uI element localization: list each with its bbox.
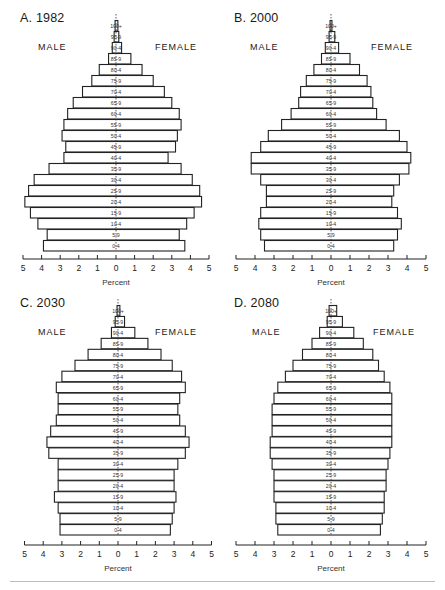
age-bar: 55-9 <box>58 404 178 414</box>
age-bar: 30-4 <box>272 459 388 469</box>
age-bar: 5-9 <box>47 230 179 241</box>
x-tick-label: 5 <box>424 263 429 273</box>
age-bar: 75-9 <box>306 76 367 87</box>
age-bar: 5-9 <box>261 230 398 241</box>
x-tick-label: 2 <box>153 549 158 559</box>
x-axis-label: Percent <box>102 278 130 287</box>
panel-2080: D. 2080 MALE FEMALE 100+95-990-485-980-4… <box>220 295 435 585</box>
population-pyramid: 100+95-990-485-980-475-970-465-960-455-9… <box>0 295 225 585</box>
age-bar: 60-4 <box>58 393 180 403</box>
x-tick-label: 1 <box>97 549 102 559</box>
x-tick-label: 3 <box>272 549 277 559</box>
x-tick-label: 5 <box>207 263 212 273</box>
x-axis: 54321012345Percent <box>234 541 429 573</box>
x-tick-label: 1 <box>310 549 315 559</box>
x-tick-label: 3 <box>60 549 65 559</box>
age-bar: 50-4 <box>268 131 399 142</box>
population-pyramid: 100+95-990-485-980-475-970-465-960-455-9… <box>220 0 445 290</box>
x-tick-label: 3 <box>386 263 391 273</box>
age-bar: 85-9 <box>312 338 363 348</box>
x-tick-label: 4 <box>253 263 258 273</box>
age-bar: 80-4 <box>88 349 161 359</box>
age-bar: 20-4 <box>58 481 174 491</box>
age-bar: 5-9 <box>60 514 172 524</box>
x-tick-label: 2 <box>291 263 296 273</box>
age-bar: 45-9 <box>66 142 176 153</box>
age-bar: 10-4 <box>259 219 402 230</box>
age-bar: 35-9 <box>49 164 181 175</box>
age-bar: 0-4 <box>278 525 381 535</box>
age-bar: 15-9 <box>274 492 384 502</box>
age-bar: 80-4 <box>99 65 142 76</box>
x-tick-label: 3 <box>172 549 177 559</box>
age-bar: 35-9 <box>270 448 390 458</box>
age-bar: 10-4 <box>276 503 384 513</box>
x-tick-label: 2 <box>291 549 296 559</box>
age-bar: 15-9 <box>261 208 398 219</box>
age-bar: 65-9 <box>278 382 390 392</box>
age-bar: 80-4 <box>303 349 373 359</box>
age-bar: 0-4 <box>60 525 170 535</box>
x-tick-label: 0 <box>116 549 121 559</box>
x-tick-label: 4 <box>41 549 46 559</box>
x-tick-label: 4 <box>405 263 410 273</box>
x-tick-label: 3 <box>58 263 63 273</box>
age-bar: 75-9 <box>75 360 172 370</box>
panel-2000: B. 2000 MALE FEMALE 100+95-990-485-980-4… <box>220 0 435 290</box>
age-bar: 90-4 <box>325 43 338 54</box>
x-tick-label: 4 <box>253 549 258 559</box>
age-bar: 50-4 <box>272 415 392 425</box>
age-bar: 90-4 <box>111 327 134 337</box>
x-tick-label: 3 <box>169 263 174 273</box>
age-bar: 70-4 <box>83 87 165 98</box>
age-bar: 85-9 <box>322 54 351 65</box>
x-tick-label: 5 <box>21 263 26 273</box>
age-bar: 75-9 <box>293 360 379 370</box>
x-tick-label: 1 <box>310 263 315 273</box>
age-bar: 55-9 <box>64 120 181 131</box>
age-bar: 60-4 <box>68 109 180 120</box>
age-bar: 55-9 <box>272 404 392 414</box>
age-bar: 65-9 <box>56 382 185 392</box>
age-bar: 70-4 <box>285 371 384 381</box>
x-tick-label: 0 <box>114 263 119 273</box>
panel-2030: C. 2030 MALE FEMALE 100+95-990-485-980-4… <box>0 295 215 585</box>
x-tick-label: 1 <box>132 263 137 273</box>
age-bar: 50-4 <box>62 131 177 142</box>
x-tick-label: 3 <box>386 549 391 559</box>
x-tick-label: 4 <box>39 263 44 273</box>
x-tick-label: 2 <box>151 263 156 273</box>
age-bar: 0-4 <box>43 241 184 252</box>
age-bar: 20-4 <box>274 481 386 491</box>
age-bar: 15-9 <box>54 492 176 502</box>
x-tick-label: 4 <box>405 549 410 559</box>
x-axis: 54321012345Percent <box>22 541 214 573</box>
age-bar: 25-9 <box>29 186 200 197</box>
age-bar: 70-4 <box>62 371 182 381</box>
age-bar: 25-9 <box>274 470 386 480</box>
age-bar: 30-4 <box>261 175 400 186</box>
age-bar: 95-9 <box>113 316 125 326</box>
x-axis-label: Percent <box>104 564 132 573</box>
age-bar: 15-9 <box>30 208 194 219</box>
age-bar: 80-4 <box>314 65 360 76</box>
age-bar: 85-9 <box>109 54 131 65</box>
page-divider <box>10 581 435 582</box>
age-bar: 45-9 <box>272 426 392 436</box>
x-axis-label: Percent <box>317 278 345 287</box>
age-bar: 85-9 <box>101 338 148 348</box>
age-bar: 95-9 <box>326 316 343 326</box>
age-bar: 60-4 <box>291 109 377 120</box>
age-bar: 55-9 <box>282 120 387 131</box>
age-bar: 20-4 <box>266 197 391 208</box>
age-bar: 65-9 <box>299 98 373 109</box>
x-tick-label: 1 <box>134 549 139 559</box>
x-tick-label: 0 <box>329 263 334 273</box>
x-tick-label: 5 <box>22 549 27 559</box>
age-bar: 10-4 <box>58 503 174 513</box>
x-tick-label: 1 <box>348 549 353 559</box>
age-bar: 20-4 <box>25 197 202 208</box>
x-tick-label: 3 <box>272 263 277 273</box>
panel-1982: A. 1982 MALE FEMALE 100+95-990-485-980-4… <box>0 0 215 290</box>
age-bar: 35-9 <box>49 448 186 458</box>
